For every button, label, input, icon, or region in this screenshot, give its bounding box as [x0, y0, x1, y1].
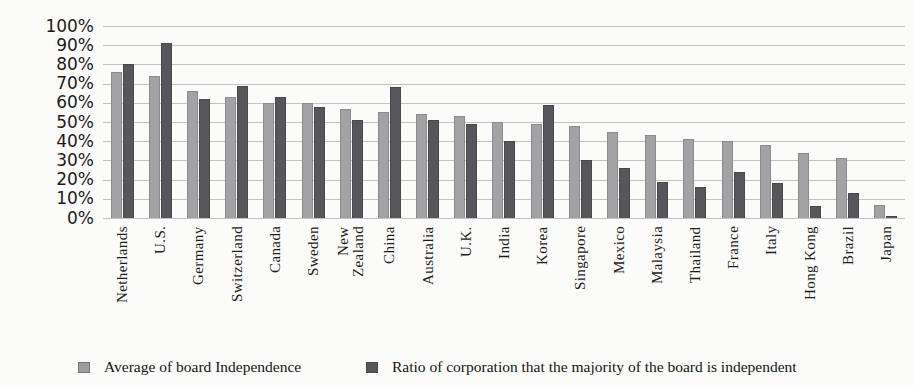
bar-group-italy: Italy	[752, 26, 790, 218]
x-tick-label: Malaysia	[649, 226, 664, 330]
x-tick-label: U.S.	[153, 226, 168, 330]
bar-average	[378, 112, 389, 218]
y-tick-label: 50%	[0, 113, 94, 132]
bar-ratio	[199, 99, 210, 218]
bar-group-germany: Germany	[179, 26, 217, 218]
bar-ratio	[237, 86, 248, 218]
bar-group-brazil: Brazil	[829, 26, 867, 218]
bar-group-japan: Japan	[867, 26, 905, 218]
bar-average	[645, 135, 656, 218]
bar-ratio	[352, 120, 363, 218]
bar-group-singapore: Singapore	[561, 26, 599, 218]
legend-item-average: Average of board Independence	[78, 356, 301, 378]
x-tick-label: Canada	[267, 226, 282, 330]
y-tick-label: 100%	[0, 17, 94, 36]
bar-average	[149, 76, 160, 218]
x-tick-label: France	[726, 226, 741, 330]
bar-group-sweden: Sweden	[294, 26, 332, 218]
x-tick-label: China	[382, 226, 397, 330]
legend-swatch-average	[78, 362, 90, 373]
bar-average	[416, 114, 427, 218]
bar-average	[722, 141, 733, 218]
bar-ratio	[275, 97, 286, 218]
bar-group-us: U.S.	[141, 26, 179, 218]
bar-ratio	[428, 120, 439, 218]
x-tick-label: Switzerland	[229, 226, 244, 330]
x-tick-label: Thailand	[687, 226, 702, 330]
bar-average	[760, 145, 771, 218]
bar-ratio	[581, 160, 592, 218]
x-tick-label: U.K.	[458, 226, 473, 330]
bar-ratio	[657, 182, 668, 218]
x-tick-label: Korea	[535, 226, 550, 330]
bar-average	[874, 205, 885, 218]
bar-ratio	[734, 172, 745, 218]
bar-average	[531, 124, 542, 218]
bar-group-india: India	[485, 26, 523, 218]
bar-average	[340, 109, 351, 218]
x-tick-label: Mexico	[611, 226, 626, 330]
bar-ratio	[390, 87, 401, 218]
bar-group-mexico: Mexico	[599, 26, 637, 218]
bar-average	[836, 158, 847, 218]
x-tick-label: India	[496, 226, 511, 330]
bar-ratio	[886, 216, 897, 218]
bar-group-uk: U.K.	[447, 26, 485, 218]
y-tick-label: 10%	[0, 189, 94, 208]
x-tick-label: New Zealand	[336, 226, 366, 330]
bar-group-korea: Korea	[523, 26, 561, 218]
bar-average	[454, 116, 465, 218]
bar-ratio	[466, 124, 477, 218]
bar-group-switzerland: Switzerland	[218, 26, 256, 218]
bar-group-canada: Canada	[256, 26, 294, 218]
y-tick-label: 0%	[0, 209, 94, 228]
bar-ratio	[848, 193, 859, 218]
bar-ratio	[543, 105, 554, 218]
bar-group-new-zealand: New Zealand	[332, 26, 370, 218]
x-tick-label: Australia	[420, 226, 435, 330]
bar-group-china: China	[370, 26, 408, 218]
x-tick-label: Japan	[878, 226, 893, 330]
bar-ratio	[772, 183, 783, 218]
legend-item-ratio: Ratio of corporation that the majority o…	[366, 356, 797, 378]
bar-average	[302, 103, 313, 218]
bar-group-france: France	[714, 26, 752, 218]
x-tick-label: Germany	[191, 226, 206, 330]
legend-label-average: Average of board Independence	[104, 358, 301, 376]
gridline-0	[103, 218, 905, 219]
bar-ratio	[810, 206, 821, 218]
x-tick-label: Netherlands	[115, 226, 130, 330]
x-tick-label: Italy	[764, 226, 779, 330]
bar-average	[492, 122, 503, 218]
bar-ratio	[123, 64, 134, 218]
bar-group-australia: Australia	[409, 26, 447, 218]
bar-ratio	[504, 141, 515, 218]
y-tick-label: 20%	[0, 170, 94, 189]
bar-average	[569, 126, 580, 218]
bar-average	[607, 132, 618, 218]
bar-group-thailand: Thailand	[676, 26, 714, 218]
bar-average	[111, 72, 122, 218]
y-tick-label: 30%	[0, 151, 94, 170]
bar-average	[225, 97, 236, 218]
bar-group-netherlands: Netherlands	[103, 26, 141, 218]
plot-area: NetherlandsU.S.GermanySwitzerlandCanadaS…	[103, 26, 905, 218]
y-tick-label: 40%	[0, 132, 94, 151]
bar-average	[263, 103, 274, 218]
legend-swatch-ratio	[366, 362, 378, 373]
bar-ratio	[161, 43, 172, 218]
chart-legend: Average of board Independence Ratio of c…	[0, 356, 914, 382]
bar-ratio	[695, 187, 706, 218]
bar-group-malaysia: Malaysia	[638, 26, 676, 218]
bar-ratio	[619, 168, 630, 218]
y-tick-label: 60%	[0, 93, 94, 112]
y-axis: 0%10%20%30%40%50%60%70%80%90%100%	[0, 26, 96, 218]
bar-average	[187, 91, 198, 218]
bar-chart-figure: 0%10%20%30%40%50%60%70%80%90%100% Nether…	[0, 0, 914, 387]
bar-average	[798, 153, 809, 218]
x-tick-label: Sweden	[306, 226, 321, 330]
y-tick-label: 90%	[0, 36, 94, 55]
bar-group-hong-kong: Hong Kong	[790, 26, 828, 218]
legend-label-ratio: Ratio of corporation that the majority o…	[392, 358, 797, 376]
y-tick-label: 70%	[0, 74, 94, 93]
